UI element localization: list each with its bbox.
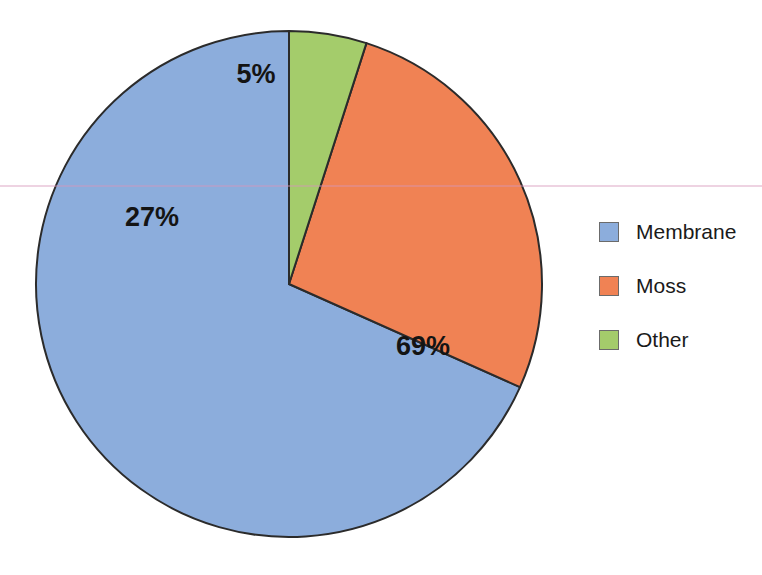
- legend-label-membrane: Membrane: [636, 222, 736, 242]
- legend-label-moss: Moss: [636, 276, 686, 296]
- chart-legend: Membrane Moss Other: [599, 222, 759, 350]
- pie-slice-value-other: 5%: [236, 59, 275, 89]
- legend-item-membrane: Membrane: [599, 222, 759, 242]
- legend-label-other: Other: [636, 330, 689, 350]
- legend-item-moss: Moss: [599, 276, 759, 296]
- legend-swatch-moss: [599, 276, 619, 296]
- pie-slice-value-moss: 27%: [125, 202, 179, 232]
- legend-swatch-other: [599, 330, 619, 350]
- pie-slice-group: [36, 31, 542, 537]
- legend-swatch-membrane: [599, 222, 619, 242]
- pie-slice-value-membrane: 69%: [396, 331, 450, 361]
- legend-item-other: Other: [599, 330, 759, 350]
- pie-chart-figure: 69%27%5% Membrane Moss Other: [0, 0, 762, 575]
